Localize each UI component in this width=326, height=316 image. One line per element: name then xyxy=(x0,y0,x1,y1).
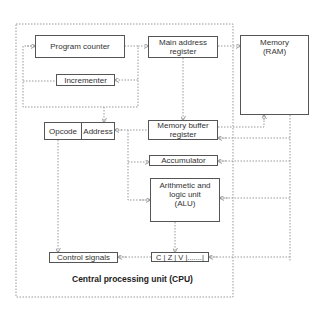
main-address-register-label: Main address register xyxy=(149,38,217,56)
opcode-box: Opcode xyxy=(44,122,82,140)
accumulator-box: Accumulator xyxy=(149,155,218,166)
control-signals-label: Control signals xyxy=(57,253,110,262)
control-signals-box: Control signals xyxy=(49,252,118,263)
memory-label: Memory (RAM) xyxy=(251,38,298,56)
flags-register-box: C | Z | V |.......| xyxy=(151,252,209,262)
flags-register-label: C | Z | V |.......| xyxy=(156,253,204,262)
memory-buffer-register-label: Memory buffer register xyxy=(155,121,211,139)
incrementer-label: Incrementer xyxy=(64,76,107,85)
alu-box: Arithmetic and logic unit (ALU) xyxy=(150,178,220,222)
opcode-label: Opcode xyxy=(49,127,77,136)
accumulator-label: Accumulator xyxy=(161,156,205,165)
main-address-register-box: Main address register xyxy=(148,36,218,58)
address-box: Address xyxy=(81,122,115,140)
alu-label: Arithmetic and logic unit (ALU) xyxy=(159,181,211,208)
address-label: Address xyxy=(83,127,112,136)
memory-buffer-register-box: Memory buffer register xyxy=(148,120,218,140)
program-counter-box: Program counter xyxy=(35,35,125,58)
cpu-title: Central processing unit (CPU) xyxy=(72,274,193,284)
incrementer-box: Incrementer xyxy=(56,74,115,86)
program-counter-label: Program counter xyxy=(50,42,110,51)
memory-box: Memory (RAM) xyxy=(240,35,309,115)
